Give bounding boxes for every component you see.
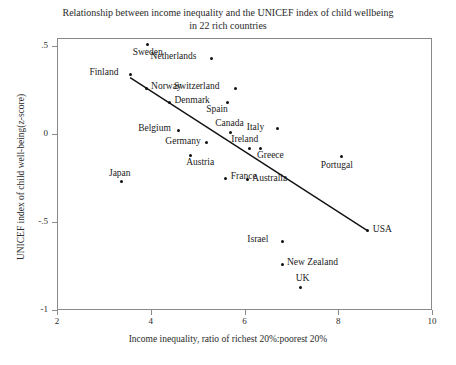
data-point-label: UK: [296, 273, 310, 283]
data-point-label: Israel: [247, 234, 268, 244]
data-point-label: Spain: [206, 104, 228, 114]
data-point-label: Australia: [252, 173, 287, 183]
x-axis-label: Income inequality, ratio of richest 20%:…: [0, 334, 456, 344]
x-tick-label: 8: [323, 316, 353, 326]
x-tick-mark: [338, 310, 339, 315]
data-point-label: USA: [373, 224, 392, 234]
x-tick-mark: [432, 310, 433, 315]
x-tick-mark: [245, 310, 246, 315]
data-point-label: Switzerland: [174, 81, 219, 91]
x-tick-label: 2: [42, 316, 72, 326]
data-point-label: Ireland: [231, 134, 258, 144]
y-tick-label: -1: [20, 304, 48, 314]
data-point-label: New Zealand: [287, 257, 338, 267]
x-tick-label: 10: [417, 316, 447, 326]
scatter-chart: Relationship between income inequality a…: [0, 0, 456, 365]
data-point-label: Italy: [247, 122, 264, 132]
data-point-label: Germany: [165, 136, 200, 146]
y-tick-label: 0: [20, 128, 48, 138]
x-tick-mark: [151, 310, 152, 315]
x-tick-label: 4: [136, 316, 166, 326]
data-point: [168, 101, 171, 104]
x-tick-mark: [57, 310, 58, 315]
y-axis-label: UNICEF index of child well-being(z-score…: [16, 52, 26, 302]
data-point: [248, 147, 251, 150]
y-tick-label: .5: [20, 40, 48, 50]
chart-title-line-1: Relationship between income inequality a…: [0, 6, 456, 19]
chart-title: Relationship between income inequality a…: [0, 6, 456, 32]
data-point-label: Canada: [215, 118, 244, 128]
data-point-label: Portugal: [321, 160, 353, 170]
data-point: [145, 87, 148, 90]
data-point-label: Greece: [257, 150, 284, 160]
y-tick-mark: [52, 46, 57, 47]
y-tick-mark: [52, 134, 57, 135]
y-tick-mark: [52, 222, 57, 223]
data-point-label: Austria: [186, 157, 214, 167]
data-point-label: Netherlands: [151, 51, 197, 61]
data-point: [224, 177, 227, 180]
data-point: [299, 286, 302, 289]
data-point-label: Japan: [109, 168, 131, 178]
data-point-label: Finland: [89, 67, 118, 77]
data-point-label: Belgium: [138, 123, 171, 133]
data-point: [281, 263, 284, 266]
x-tick-label: 6: [230, 316, 260, 326]
chart-title-line-2: in 22 rich countries: [0, 19, 456, 32]
data-point: [205, 141, 208, 144]
data-point-label: Denmark: [175, 95, 210, 105]
data-point: [234, 87, 237, 90]
data-point: [129, 73, 132, 76]
y-tick-label: -.5: [20, 216, 48, 226]
